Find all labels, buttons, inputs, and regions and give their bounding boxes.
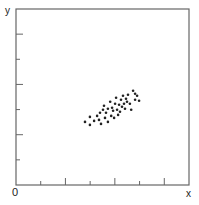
data-point [102, 109, 105, 112]
data-point [119, 111, 122, 114]
data-point [111, 107, 114, 110]
data-point [110, 115, 113, 118]
data-point [134, 92, 137, 95]
data-point [116, 109, 119, 112]
scatter-chart: y x 0 [0, 0, 199, 205]
data-point [122, 94, 125, 97]
data-point [103, 105, 106, 108]
y-axis-label: y [5, 5, 10, 16]
data-point [124, 108, 127, 111]
data-point [118, 104, 121, 107]
data-point [107, 108, 110, 111]
data-point [114, 103, 117, 106]
x-axis-ticks [41, 178, 165, 185]
data-point [115, 97, 118, 100]
data-point [132, 89, 135, 92]
data-points [84, 89, 141, 126]
data-point [100, 123, 103, 126]
x-axis-label: x [186, 188, 191, 199]
data-point [99, 112, 102, 115]
data-point [117, 114, 120, 117]
origin-label: 0 [12, 186, 18, 198]
data-point [121, 106, 124, 109]
data-point [120, 99, 123, 102]
data-point [125, 98, 128, 101]
data-point [134, 99, 137, 102]
data-point [105, 112, 108, 115]
data-point [129, 103, 132, 106]
data-point [112, 110, 115, 113]
data-point [113, 117, 116, 120]
data-point [98, 119, 101, 122]
data-point [107, 121, 110, 124]
data-point [109, 101, 112, 104]
data-point [127, 93, 130, 96]
data-point [126, 101, 129, 104]
data-point [123, 103, 126, 106]
data-point [84, 121, 87, 124]
data-point [130, 109, 133, 112]
data-point [138, 100, 141, 103]
y-axis-ticks [16, 34, 23, 160]
data-point [89, 116, 92, 119]
data-point [89, 124, 92, 127]
data-point [96, 115, 99, 118]
data-point [93, 120, 96, 123]
plot-frame [16, 9, 189, 185]
data-point [136, 94, 139, 97]
data-point [104, 117, 107, 120]
